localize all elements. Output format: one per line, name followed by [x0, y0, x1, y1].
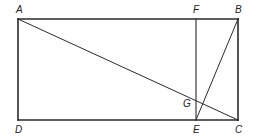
label-c: C — [235, 124, 243, 135]
label-g: G — [183, 98, 191, 109]
label-b: B — [235, 4, 242, 15]
label-d: D — [15, 124, 22, 135]
label-a: A — [15, 4, 23, 15]
label-f: F — [193, 4, 200, 15]
geometry-diagram: A F B G D E C — [0, 0, 256, 138]
segment-ac — [18, 19, 238, 120]
label-e: E — [193, 124, 200, 135]
segment-eb — [196, 19, 238, 120]
